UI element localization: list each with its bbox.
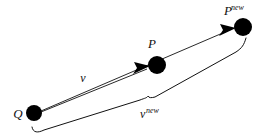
arrowhead-v-new [219, 24, 236, 36]
node-label-p-new: P new [223, 3, 245, 18]
vector-diagram-figure: Q P P new v v new [0, 0, 269, 137]
brace-v-new [32, 38, 246, 132]
node-label-p-new-superscript: new [231, 3, 245, 12]
diagram-canvas: Q P P new v v new [0, 0, 269, 137]
vector-label-v-new-superscript: new [146, 106, 160, 115]
vector-label-v-new: v new [140, 106, 160, 121]
node-label-q: Q [13, 106, 23, 121]
vector-label-v: v [80, 71, 86, 85]
arrowhead-v [133, 62, 150, 74]
vector-line-v [41, 69, 147, 112]
node-dot-p-new [234, 18, 252, 36]
node-label-p: P [147, 36, 156, 51]
node-dot-q [26, 105, 42, 121]
node-dot-p [148, 56, 166, 74]
